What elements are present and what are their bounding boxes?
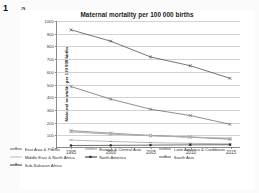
chart-title: Maternal mortality per 100 000 births bbox=[20, 11, 254, 18]
legend-label: Sub-Saharan Africa bbox=[25, 163, 62, 168]
legend-swatch-icon: × bbox=[10, 146, 22, 152]
y-tick-label: 500 bbox=[47, 82, 54, 87]
legend-item-south-asia[interactable]: ×South Asia bbox=[159, 154, 234, 160]
figure-container: 1 a Maternal mortality per 100 000 birth… bbox=[0, 0, 259, 193]
figure-number: 1 bbox=[3, 3, 8, 13]
plot-area: Maternal mortality per 100 000 births 01… bbox=[56, 21, 240, 148]
legend-swatch-icon: × bbox=[159, 154, 171, 160]
y-tick-label: 700 bbox=[47, 57, 54, 62]
legend-label: South Asia bbox=[174, 155, 195, 160]
legend-label: East Asia & Pacific bbox=[25, 147, 61, 152]
legend-row: ×East Asia & Pacific—Europe & Central As… bbox=[10, 146, 234, 152]
chart-legend: ×East Asia & Pacific—Europe & Central As… bbox=[10, 146, 234, 171]
y-tick-label: 900 bbox=[47, 31, 54, 36]
legend-label: North America bbox=[99, 155, 126, 160]
legend-item-latin-america-caribbean[interactable]: ×Latin America & Caribbean bbox=[159, 146, 234, 152]
legend-item-north-america[interactable]: ■North America bbox=[85, 154, 160, 160]
legend-swatch-icon: — bbox=[10, 154, 22, 160]
series-south-asia bbox=[69, 85, 231, 126]
legend-swatch-icon: × bbox=[10, 162, 22, 168]
y-tick-label: 200 bbox=[47, 120, 54, 125]
y-tick-label: 100 bbox=[47, 133, 54, 138]
series-sub-saharan-africa bbox=[69, 28, 231, 79]
series-middle-east-north-africa bbox=[69, 132, 231, 139]
series-east-asia-pacific bbox=[69, 129, 231, 141]
legend-swatch-icon: × bbox=[159, 146, 171, 152]
legend-label: Middle East & North Africa bbox=[25, 155, 75, 160]
legend-label: Europe & Central Asia bbox=[99, 147, 141, 152]
series-europe-central-asia bbox=[69, 140, 231, 144]
series-lines bbox=[57, 21, 240, 147]
legend-item-middle-east-north-africa[interactable]: —Middle East & North Africa bbox=[10, 154, 85, 160]
legend-label: Latin America & Caribbean bbox=[174, 147, 225, 152]
y-tick-label: 400 bbox=[47, 95, 54, 100]
y-tick-label: 1000 bbox=[44, 19, 54, 24]
legend-swatch-icon: ■ bbox=[85, 154, 97, 160]
legend-row: ×Sub-Saharan Africa bbox=[10, 162, 234, 168]
legend-item-europe-central-asia[interactable]: —Europe & Central Asia bbox=[85, 146, 160, 152]
legend-row: —Middle East & North Africa■North Americ… bbox=[10, 154, 234, 160]
y-tick-label: 600 bbox=[47, 69, 54, 74]
y-tick-label: 800 bbox=[47, 44, 54, 49]
legend-swatch-icon: — bbox=[85, 146, 97, 152]
legend-item-east-asia-pacific[interactable]: ×East Asia & Pacific bbox=[10, 146, 85, 152]
y-tick-label: 300 bbox=[47, 107, 54, 112]
legend-item-sub-saharan-africa[interactable]: ×Sub-Saharan Africa bbox=[10, 162, 85, 168]
